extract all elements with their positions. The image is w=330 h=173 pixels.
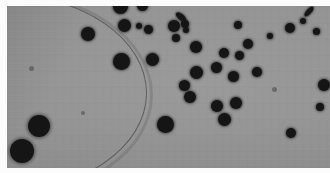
colony	[252, 67, 262, 77]
colony	[172, 34, 180, 42]
colony	[144, 25, 153, 34]
colony	[318, 79, 330, 91]
colony	[228, 71, 239, 82]
colony	[285, 23, 295, 33]
colony	[234, 21, 242, 29]
colony	[113, 53, 130, 70]
colony	[190, 41, 202, 53]
micrograph-figure	[0, 0, 330, 173]
colony	[219, 48, 229, 58]
colony	[313, 28, 320, 35]
colony	[211, 62, 222, 73]
colony	[316, 103, 324, 111]
colony	[190, 66, 203, 79]
petri-dish-plate-image	[7, 6, 330, 168]
colony	[211, 100, 223, 112]
colony-speck	[29, 66, 34, 71]
colony	[267, 33, 273, 39]
colony	[184, 91, 196, 103]
colony-speck	[272, 87, 277, 92]
colony	[146, 53, 159, 66]
bottom-white-margin	[0, 168, 330, 173]
colony	[300, 18, 306, 24]
colony-speck	[81, 111, 85, 115]
colony	[157, 116, 174, 133]
colony	[10, 139, 34, 163]
colony	[81, 27, 95, 41]
colony	[230, 97, 242, 109]
colony	[168, 20, 180, 32]
colony	[243, 39, 253, 49]
scanline-texture	[7, 6, 330, 168]
colony	[218, 113, 231, 126]
colony	[118, 19, 131, 32]
colony	[179, 80, 190, 91]
colony	[286, 128, 296, 138]
colony	[183, 27, 189, 33]
colony	[136, 23, 142, 29]
colony	[235, 51, 244, 60]
colony	[28, 115, 50, 137]
